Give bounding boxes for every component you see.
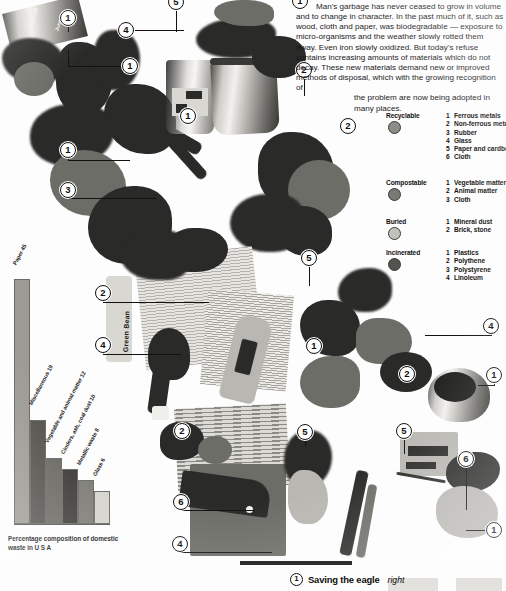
waste-classification-legend: Recyclable 1Ferrous metals 2Non-ferrous …: [388, 112, 506, 296]
chart-caption: Percentage composition of domestic waste…: [8, 535, 128, 552]
collage-bottle-cap: [152, 406, 169, 420]
legend-item: 4Linoleum: [446, 274, 506, 282]
callout-marker[interactable]: 1: [486, 367, 502, 383]
callout-marker[interactable]: 4: [172, 536, 188, 552]
bottom-thumbnail: [456, 578, 502, 591]
legend-group-buried: Buried 1Mineral dust 2Brick, stone: [388, 218, 506, 244]
leader-line: [181, 510, 255, 511]
leader-line: [68, 66, 126, 67]
callout-marker[interactable]: 2: [174, 423, 190, 439]
collage-jar-label-print: [186, 91, 202, 99]
bar-cinders: [62, 469, 78, 524]
bottom-caption-title: Saving the eagle: [308, 574, 380, 585]
legend-group-incinerated: Incinerated 1Plastics 2Polythene 3Polyst…: [388, 249, 506, 291]
callout-marker[interactable]: 4: [118, 22, 134, 38]
page-canvas: SUGAR Juno Gre: [0, 0, 506, 591]
intro-paragraph-tail: the problem are now being adopted in man…: [354, 93, 504, 113]
bar-glass: [94, 491, 110, 524]
legend-swatch-recyclable: [388, 121, 401, 134]
legend-item-list: 1Ferrous metals 2Non-ferrous metals 3Rub…: [446, 112, 506, 162]
collage-debris: [14, 62, 54, 96]
leader-line: [68, 198, 156, 199]
chart-baseline: [14, 524, 110, 525]
callout-marker[interactable]: 2: [340, 118, 356, 134]
legend-item: 3Rubber: [446, 129, 506, 137]
callout-marker[interactable]: 4: [483, 318, 499, 334]
legend-group-title: Incinerated: [386, 249, 444, 257]
leader-line: [425, 335, 491, 336]
legend-swatch-compostable: [388, 188, 401, 201]
legend-item: 2Polythene: [446, 257, 506, 265]
intro-paragraph-body: Man's garbage has never ceased to grow i…: [296, 2, 504, 93]
collage-debris: [198, 436, 232, 464]
callout-marker[interactable]: 6: [458, 451, 474, 467]
legend-group-compostable: Compostable 1Vegetable matter 2Animal ma…: [388, 179, 506, 213]
legend-item: 1Mineral dust: [446, 218, 506, 226]
callout-marker[interactable]: 5: [168, 0, 184, 10]
bottom-callout-marker[interactable]: 1: [290, 573, 303, 586]
leader-line: [466, 460, 467, 510]
leader-line: [68, 50, 69, 67]
callout-marker[interactable]: 1: [306, 338, 322, 354]
callout-marker[interactable]: 1: [486, 522, 502, 538]
legend-item-list: 1Mineral dust 2Brick, stone: [446, 218, 506, 235]
legend-swatch-incinerated: [388, 258, 401, 271]
legend-group-title: Recyclable: [386, 112, 444, 120]
collage-appliance-detail: [406, 462, 436, 469]
bar-metallic: [78, 480, 94, 524]
leader-line: [180, 552, 272, 553]
bar-label-metallic: Metallic waste 8: [76, 427, 100, 466]
legend-item: 2Animal matter: [446, 187, 506, 195]
legend-swatch-buried: [388, 227, 401, 240]
legend-item: 6Cloth: [446, 153, 506, 161]
callout-marker[interactable]: 2: [399, 366, 415, 382]
legend-item: 2Brick, stone: [446, 226, 506, 234]
collage-metal-bowl-shadow: [434, 372, 476, 402]
legend-item: 4Glass: [446, 137, 506, 145]
bar-vegetable: [46, 458, 62, 524]
leader-line: [68, 26, 69, 32]
bottom-figure-caption: 1 Saving the eagle right: [290, 573, 404, 586]
bar-label-miscellaneous: Miscellaneous 19: [28, 364, 54, 406]
leader-line: [478, 385, 494, 386]
collage-debris: [300, 356, 360, 408]
legend-item: 5Paper and cardboard: [446, 145, 506, 153]
callout-marker[interactable]: 1: [122, 58, 138, 74]
legend-item: 2Non-ferrous metals: [446, 120, 506, 128]
callout-marker[interactable]: 1: [180, 108, 196, 124]
legend-item-list: 1Vegetable matter 2Animal matter 3Cloth: [446, 179, 506, 204]
bottom-caption-reference: right: [388, 575, 405, 585]
collage-appliance-detail: [408, 446, 448, 456]
legend-item: 1Ferrous metals: [446, 112, 506, 120]
leader-line: [309, 264, 310, 286]
waste-composition-bar-chart: Paper 45 Miscellaneous 19 Vegetable and …: [6, 258, 122, 558]
bar-miscellaneous: [30, 420, 46, 524]
callout-marker[interactable]: 5: [297, 424, 313, 440]
callout-marker[interactable]: 1: [60, 142, 76, 158]
collage-label-green-bean: Green Bean: [122, 311, 130, 353]
callout-marker[interactable]: 5: [301, 250, 317, 266]
bottom-section-rule: [240, 561, 352, 565]
chart-plot-area: Paper 45 Miscellaneous 19 Vegetable and …: [14, 278, 106, 524]
legend-item: 1Vegetable matter: [446, 179, 506, 187]
leader-line: [176, 8, 177, 32]
intro-paragraph: Man's garbage has never ceased to grow i…: [296, 2, 504, 114]
callout-marker[interactable]: 6: [173, 494, 189, 510]
legend-item-list: 1Plastics 2Polythene 3Polystyrene 4Linol…: [446, 249, 506, 282]
leader-line: [68, 160, 130, 161]
legend-group-title: Buried: [386, 218, 444, 226]
callout-marker[interactable]: 3: [60, 182, 76, 198]
collage-debris: [338, 268, 392, 312]
bar-label-vegetable: Vegetable and animal matter 12: [44, 370, 87, 444]
legend-item: 3Polystyrene: [446, 266, 506, 274]
legend-group-recyclable: Recyclable 1Ferrous metals 2Non-ferrous …: [388, 112, 506, 174]
callout-marker[interactable]: 5: [396, 423, 412, 439]
leader-line: [126, 30, 184, 31]
legend-item: 3Cloth: [446, 196, 506, 204]
bar-label-glass: Glass 6: [92, 457, 106, 477]
callout-marker[interactable]: 1: [60, 10, 76, 26]
legend-group-title: Compostable: [386, 179, 444, 187]
legend-item: 1Plastics: [446, 249, 506, 257]
